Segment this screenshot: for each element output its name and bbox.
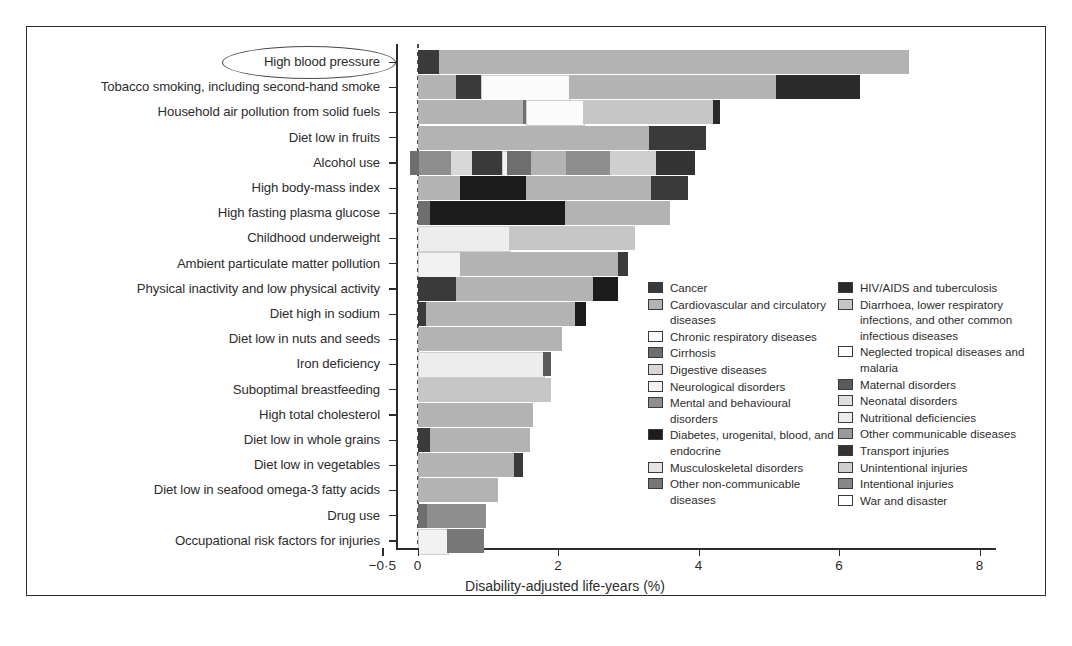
bar-segment-cardiovascular — [569, 75, 776, 99]
legend-item[interactable]: Intentional injuries — [838, 476, 1043, 492]
y-axis-tick — [389, 62, 397, 63]
legend-column-left: CancerCardiovascular and circulatory dis… — [648, 280, 838, 508]
legend-item[interactable]: Maternal disorders — [838, 377, 1043, 393]
legend-item[interactable]: Neurological disorders — [648, 379, 838, 395]
legend-item[interactable]: Neonatal disorders — [838, 393, 1043, 409]
bar-segment-mental_behavioural — [427, 504, 487, 528]
legend-label: Musculoskeletal disorders — [670, 460, 838, 476]
legend-item[interactable]: Neglected tropical diseases and malaria — [838, 344, 1043, 375]
bar-segment-cirrhosis — [418, 201, 431, 225]
bar-segment-hiv_tb — [713, 100, 720, 124]
legend-label: War and disaster — [860, 493, 1043, 509]
legend-item[interactable]: Other non-communicable diseases — [648, 476, 838, 507]
legend-swatch-unintentional — [838, 462, 853, 473]
legend-item[interactable]: Nutritional deficiencies — [838, 410, 1043, 426]
y-axis-tick — [389, 440, 397, 441]
legend-label: Nutritional deficiencies — [860, 410, 1043, 426]
y-axis-tick — [389, 339, 397, 340]
legend-label: Chronic respiratory diseases — [670, 329, 838, 345]
y-axis-tick — [389, 515, 397, 516]
x-axis-tick-label: 4 — [695, 558, 703, 573]
bar-segment-cardiovascular — [418, 126, 650, 150]
bar-segment-cirrhosis — [410, 151, 418, 175]
legend-label: Transport injuries — [860, 443, 1043, 459]
legend-item[interactable]: HIV/AIDS and tuberculosis — [838, 280, 1043, 296]
y-axis-tick — [389, 314, 397, 315]
legend-item[interactable]: Mental and behavioural disorders — [648, 395, 838, 426]
bar-segment-cancer — [418, 428, 431, 452]
legend-item[interactable]: Musculoskeletal disorders — [648, 460, 838, 476]
legend-item[interactable]: Other communicable diseases — [838, 426, 1043, 442]
legend-swatch-musculoskeletal — [648, 462, 663, 473]
legend-item[interactable]: Cirrhosis — [648, 345, 838, 361]
y-axis-tick — [389, 263, 397, 264]
bar-segment-cancer — [418, 50, 439, 74]
legend-label: Other non-communicable diseases — [670, 476, 838, 507]
x-axis-tick-label: 2 — [554, 558, 562, 573]
bar-segment-cancer — [456, 75, 481, 99]
bar-segment-cardiovascular — [418, 403, 534, 427]
x-axis-title: Disability-adjusted life-years (%) — [0, 578, 1072, 594]
bar-segment-cancer — [418, 302, 426, 326]
bar-stack — [0, 529, 1072, 553]
y-axis-tick — [389, 238, 397, 239]
legend-item[interactable]: Diabetes, urogenital, blood, and endocri… — [648, 427, 838, 458]
legend-label: Digestive diseases — [670, 362, 838, 378]
y-axis-tick — [389, 87, 397, 88]
legend-swatch-diabetes — [648, 429, 663, 440]
legend-item[interactable]: Chronic respiratory diseases — [648, 329, 838, 345]
legend-label: Maternal disorders — [860, 377, 1043, 393]
x-axis-tick — [980, 548, 981, 556]
legend-label: Other communicable diseases — [860, 426, 1043, 442]
y-axis-tick — [389, 137, 397, 138]
legend-label: Neglected tropical diseases and malaria — [860, 344, 1043, 375]
legend-label: Intentional injuries — [860, 476, 1043, 492]
legend-item[interactable]: Cancer — [648, 280, 838, 296]
bar-segment-cirrhosis — [418, 504, 427, 528]
bar-segment-cardiovascular — [418, 327, 562, 351]
bar-segment-diarrhoea — [418, 378, 551, 402]
bar-segment-cardiovascular — [418, 100, 523, 124]
plot-area: High blood pressureTobacco smoking, incl… — [0, 0, 1072, 646]
legend-swatch-digestive — [648, 364, 663, 375]
legend-label: Unintentional injuries — [860, 460, 1043, 476]
bar-segment-nutritional — [418, 226, 511, 252]
bar-segment-cardiovascular — [460, 252, 618, 276]
legend-item[interactable]: Digestive diseases — [648, 362, 838, 378]
bar-segment-cancer — [651, 176, 688, 200]
bar-stack — [0, 50, 1072, 74]
bar-stack — [0, 100, 1072, 124]
x-axis-tick — [558, 548, 559, 556]
y-axis-tick — [389, 188, 397, 189]
legend-label: Cancer — [670, 280, 838, 296]
legend-item[interactable]: War and disaster — [838, 493, 1043, 509]
legend-label: Diarrhoea, lower respiratory infections,… — [860, 297, 1043, 344]
bar-segment-cancer — [618, 252, 629, 276]
bar-segment-mental_behavioural — [566, 151, 610, 175]
y-axis-tick — [389, 162, 397, 163]
y-axis-tick — [389, 490, 397, 491]
bar-segment-diabetes — [575, 302, 586, 326]
bar-stack — [0, 176, 1072, 200]
legend-label: Mental and behavioural disorders — [670, 395, 838, 426]
bar-segment-mental_behavioural — [419, 151, 451, 175]
bar-stack — [0, 226, 1072, 250]
legend-item[interactable]: Transport injuries — [838, 443, 1043, 459]
bar-segment-digestive — [451, 151, 472, 175]
legend-item[interactable]: Cardiovascular and circulatory diseases — [648, 297, 838, 328]
bar-segment-cardiovascular — [418, 453, 515, 477]
legend-item[interactable]: Unintentional injuries — [838, 460, 1043, 476]
legend-label: Neurological disorders — [670, 379, 838, 395]
legend-swatch-neonatal — [838, 395, 853, 406]
legend-swatch-diarrhoea — [838, 299, 853, 310]
legend-label: HIV/AIDS and tuberculosis — [860, 280, 1043, 296]
x-axis-tick-label: 0 — [414, 558, 422, 573]
legend-swatch-maternal — [838, 379, 853, 390]
legend-swatch-nutritional — [838, 412, 853, 423]
legend-item[interactable]: Diarrhoea, lower respiratory infections,… — [838, 297, 1043, 344]
x-axis-tick — [382, 548, 383, 556]
y-axis-tick — [389, 213, 397, 214]
bar-segment-cancer — [472, 151, 502, 175]
bar-segment-unintentional — [610, 151, 656, 175]
legend-swatch-war_disaster — [838, 495, 853, 506]
